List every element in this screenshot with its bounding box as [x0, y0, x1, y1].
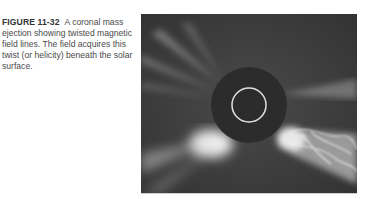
cme-illustration	[141, 14, 357, 193]
figure-label: FIGURE 11-32	[2, 17, 60, 27]
coronagraph-image	[141, 14, 357, 194]
figure-caption: FIGURE 11-32 A coronal mass ejection sho…	[2, 17, 137, 72]
occulting-disk	[211, 67, 287, 143]
